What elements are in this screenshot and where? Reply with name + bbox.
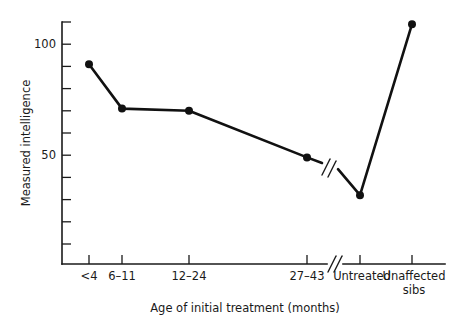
line-chart-canvas: 100 50 Measured intelligence [0, 0, 462, 320]
data-point-4 [356, 191, 364, 199]
x-tick-label-0: <4 [81, 269, 98, 283]
y-axis-title: Measured intelligence [19, 80, 33, 207]
y-tick-label-50: 50 [41, 148, 56, 162]
y-tick-label-100: 100 [34, 37, 56, 51]
data-point-1 [118, 105, 126, 113]
x-tick-label-5-line2: sibs [403, 283, 425, 297]
data-point-2 [185, 107, 193, 115]
x-tick-label-2: 12–24 [171, 269, 206, 283]
x-axis-title: Age of initial treatment (months) [150, 301, 340, 315]
data-point-5 [408, 20, 416, 28]
x-tick-label-3: 27–43 [289, 269, 324, 283]
data-point-3 [303, 153, 311, 161]
data-point-0 [85, 60, 93, 68]
chart-figure: 100 50 Measured intelligence [0, 0, 462, 320]
x-tick-label-1: 6–11 [108, 269, 136, 283]
x-tick-label-5-line1: Unaffected [383, 269, 446, 283]
